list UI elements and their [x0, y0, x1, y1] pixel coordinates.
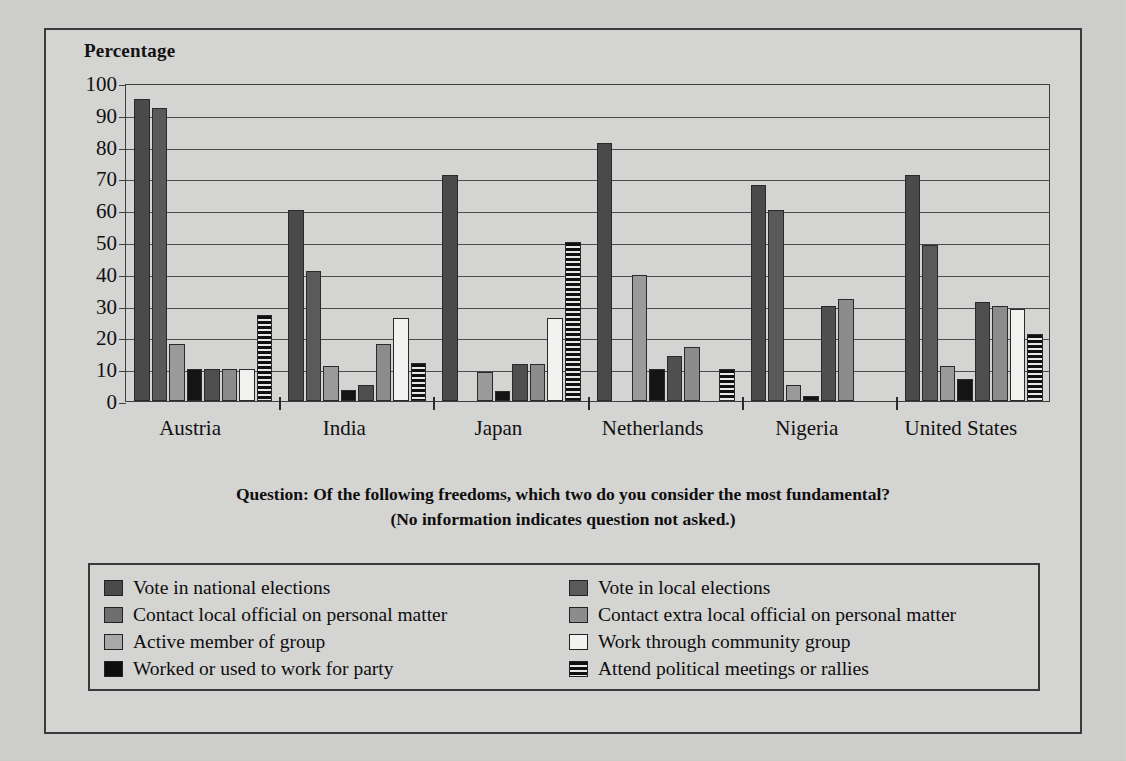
bar[interactable]	[768, 210, 784, 401]
bar[interactable]	[803, 396, 819, 401]
bar[interactable]	[684, 347, 700, 401]
bar-group	[597, 85, 737, 401]
legend-item[interactable]: Vote in local elections	[569, 574, 1024, 601]
bar[interactable]	[1027, 334, 1043, 401]
bar[interactable]	[992, 306, 1008, 401]
bar[interactable]	[565, 242, 581, 401]
y-tick-label: 20	[96, 326, 117, 351]
legend-swatch	[104, 580, 123, 596]
bar-group	[751, 85, 891, 401]
bar[interactable]	[442, 175, 458, 401]
bar[interactable]	[547, 318, 563, 401]
y-axis-tick	[119, 212, 126, 213]
bar[interactable]	[239, 369, 255, 401]
y-axis-tick	[119, 117, 126, 118]
bar-group	[288, 85, 428, 401]
legend-item[interactable]: Work through community group	[569, 628, 1024, 655]
plot-area	[125, 84, 1050, 402]
y-tick-label: 30	[96, 294, 117, 319]
plot-area-wrapper: 1009080706050403020100 AustriaIndiaJapan…	[73, 84, 1058, 454]
bar-group	[905, 85, 1045, 401]
bar-group	[442, 85, 582, 401]
x-tick-label: United States	[905, 416, 1018, 441]
bar[interactable]	[1010, 309, 1026, 401]
legend-label: Work through community group	[598, 631, 850, 653]
legend-label: Active member of group	[133, 631, 325, 653]
legend-label: Contact local official on personal matte…	[133, 604, 447, 626]
bar[interactable]	[905, 175, 921, 401]
bar[interactable]	[341, 390, 357, 401]
bar[interactable]	[257, 315, 273, 401]
legend-label: Vote in national elections	[133, 577, 330, 599]
bar[interactable]	[169, 344, 185, 401]
bar[interactable]	[323, 366, 339, 401]
legend-grid: Vote in national electionsVote in local …	[104, 574, 1024, 682]
y-axis-tick	[119, 339, 126, 340]
y-axis-tick	[119, 180, 126, 181]
legend-swatch	[104, 607, 123, 623]
legend-item[interactable]: Worked or used to work for party	[104, 655, 559, 682]
bar[interactable]	[922, 245, 938, 401]
y-axis-tick	[119, 244, 126, 245]
page-background: Percentage 1009080706050403020100 Austri…	[0, 0, 1126, 761]
bar[interactable]	[597, 143, 613, 401]
bar[interactable]	[411, 363, 427, 401]
bar[interactable]	[187, 369, 203, 401]
bar[interactable]	[786, 385, 802, 401]
x-tick-label: Netherlands	[602, 416, 703, 441]
bar[interactable]	[512, 364, 528, 401]
legend-item[interactable]: Vote in national elections	[104, 574, 559, 601]
x-axis-tick-labels: AustriaIndiaJapanNetherlandsNigeriaUnite…	[125, 406, 1050, 440]
legend-swatch	[569, 580, 588, 596]
bar[interactable]	[288, 210, 304, 401]
legend-label: Contact extra local official on personal…	[598, 604, 956, 626]
bar[interactable]	[152, 108, 168, 401]
y-axis-tick	[119, 276, 126, 277]
bar[interactable]	[719, 369, 735, 401]
bar[interactable]	[975, 302, 991, 401]
figure-frame: Percentage 1009080706050403020100 Austri…	[44, 28, 1082, 734]
y-tick-label: 60	[96, 199, 117, 224]
legend-swatch	[104, 634, 123, 650]
bar[interactable]	[632, 275, 648, 401]
legend-item[interactable]: Active member of group	[104, 628, 559, 655]
y-tick-label: 10	[96, 358, 117, 383]
bar[interactable]	[821, 306, 837, 401]
bar[interactable]	[667, 356, 683, 401]
bar[interactable]	[940, 366, 956, 401]
legend-item[interactable]: Attend political meetings or rallies	[569, 655, 1024, 682]
bar[interactable]	[649, 369, 665, 401]
legend-swatch	[569, 607, 588, 623]
bar[interactable]	[838, 299, 854, 401]
x-tick-label: India	[323, 416, 366, 441]
bar[interactable]	[376, 344, 392, 401]
legend-label: Vote in local elections	[598, 577, 770, 599]
bar[interactable]	[477, 372, 493, 401]
bar[interactable]	[306, 271, 322, 401]
bar[interactable]	[222, 369, 238, 401]
bar[interactable]	[495, 391, 511, 401]
legend-label: Worked or used to work for party	[133, 658, 394, 680]
y-tick-label: 0	[107, 390, 118, 415]
legend-item[interactable]: Contact local official on personal matte…	[104, 601, 559, 628]
bar-group	[134, 85, 274, 401]
bar[interactable]	[751, 185, 767, 401]
y-axis-tick	[119, 403, 126, 404]
bar[interactable]	[204, 369, 220, 401]
legend-swatch	[104, 661, 123, 677]
bar[interactable]	[530, 364, 546, 401]
y-tick-label: 50	[96, 231, 117, 256]
x-tick-label: Japan	[474, 416, 522, 441]
y-axis-tick-labels: 1009080706050403020100	[73, 84, 117, 402]
legend-swatch	[569, 661, 588, 677]
legend-item[interactable]: Contact extra local official on personal…	[569, 601, 1024, 628]
bars-layer	[126, 85, 1049, 401]
legend: Vote in national electionsVote in local …	[88, 563, 1040, 691]
bar[interactable]	[358, 385, 374, 401]
legend-swatch	[569, 634, 588, 650]
y-tick-label: 80	[96, 135, 117, 160]
bar[interactable]	[134, 99, 150, 401]
bar[interactable]	[393, 318, 409, 401]
x-tick-label: Austria	[159, 416, 221, 441]
bar[interactable]	[957, 379, 973, 401]
